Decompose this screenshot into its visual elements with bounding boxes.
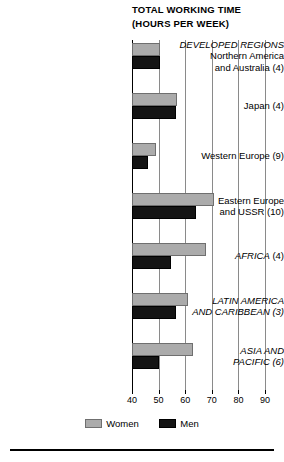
category-label-5: LATIN AMERICAAND CARIBBEAN (3): [156, 295, 284, 318]
category-label-1: Japan (4): [156, 100, 284, 112]
bar-men-2: [132, 156, 148, 169]
footer-rule: [10, 449, 274, 451]
x-tick-label-80: 80: [228, 395, 248, 405]
x-tick-label-50: 50: [149, 395, 169, 405]
x-tick-label-90: 90: [255, 395, 275, 405]
category-label-4: AFRICA (4): [156, 250, 284, 262]
chart-title-line2: (HOURS PER WEEK): [132, 17, 282, 31]
x-tick-60: [185, 390, 186, 394]
legend-item-men: Men: [159, 418, 198, 429]
legend-swatch-men-icon: [159, 419, 176, 428]
x-tick-90: [265, 390, 266, 394]
x-tick-70: [212, 390, 213, 394]
chart-container: TOTAL WORKING TIME (HOURS PER WEEK) 4050…: [0, 0, 284, 462]
legend-swatch-women-icon: [85, 419, 102, 428]
legend-label-women: Women: [106, 418, 139, 429]
x-tick-label-70: 70: [202, 395, 222, 405]
x-tick-label-60: 60: [175, 395, 195, 405]
x-tick-40: [132, 390, 133, 394]
bar-men-6: [132, 356, 159, 369]
category-label-0: DEVELOPED REGIONSNorthern Americaand Aus…: [156, 39, 284, 74]
x-tick-50: [159, 390, 160, 394]
category-label-6: ASIA ANDPACIFIC (6): [156, 345, 284, 368]
chart-legend: Women Men: [0, 418, 284, 429]
legend-item-women: Women: [85, 418, 139, 429]
chart-title: TOTAL WORKING TIME (HOURS PER WEEK): [132, 3, 282, 31]
x-tick-label-40: 40: [122, 395, 142, 405]
category-label-2: Western Europe (9): [156, 150, 284, 162]
category-label-3: Eastern Europeand USSR (10): [156, 195, 284, 218]
legend-label-men: Men: [180, 418, 198, 429]
x-tick-80: [238, 390, 239, 394]
bar-women-2: [132, 143, 156, 156]
chart-title-line1: TOTAL WORKING TIME: [132, 3, 282, 17]
